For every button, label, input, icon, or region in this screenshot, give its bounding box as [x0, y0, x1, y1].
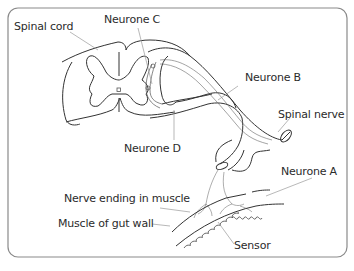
- label-spinal-nerve: Spinal nerve: [278, 109, 344, 121]
- spinal-cord: [62, 40, 190, 125]
- label-neurone-b: Neurone B: [245, 72, 301, 84]
- diagram-canvas: [0, 0, 354, 271]
- label-neurone-c: Neurone C: [104, 14, 160, 26]
- label-spinal-cord: Spinal cord: [14, 21, 73, 33]
- neurone-a: [194, 170, 252, 218]
- label-muscle-gut-wall: Muscle of gut wall: [58, 218, 154, 230]
- leader-lines: [70, 28, 312, 244]
- label-neurone-a: Neurone A: [281, 166, 337, 178]
- label-neurone-d: Neurone D: [124, 143, 181, 155]
- label-nerve-ending: Nerve ending in muscle: [64, 193, 190, 205]
- label-sensor: Sensor: [234, 240, 271, 252]
